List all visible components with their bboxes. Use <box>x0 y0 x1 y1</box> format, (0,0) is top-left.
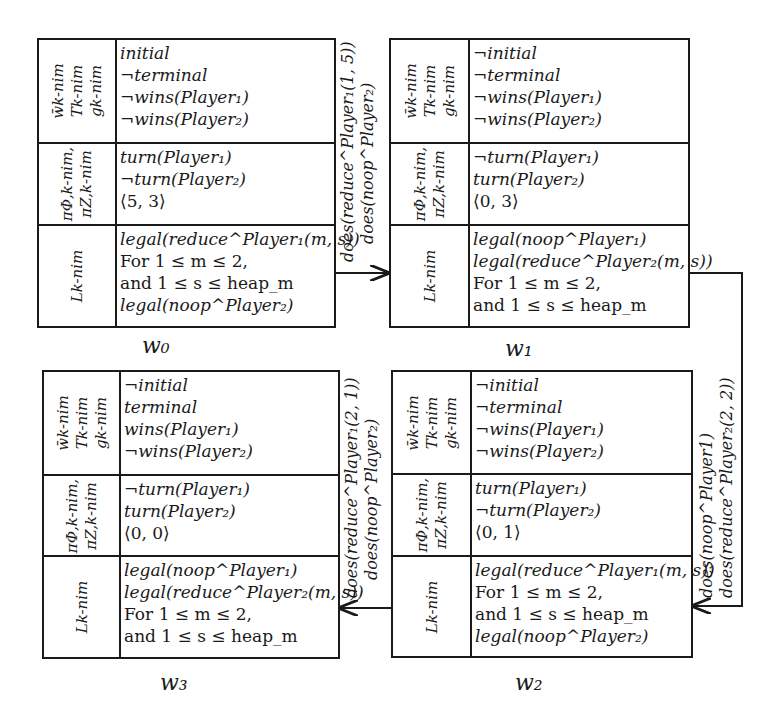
row-content: ¬initial terminal wins(Player₁) ¬wins(Pl… <box>121 372 338 474</box>
state-label-w0: w₀ <box>142 333 170 358</box>
row-content: turn(Player₁) ¬turn(Player₂) ⟨0, 1⟩ <box>472 475 691 555</box>
row-label-cell: w̄k-nim Tk-nim gk-nim <box>39 40 117 142</box>
row-content: initial ¬terminal ¬wins(Player₁) ¬wins(P… <box>117 40 334 142</box>
row-label-cell: w̄k-nim Tk-nim gk-nim <box>393 372 472 473</box>
state-w0: w̄k-nim Tk-nim gk-nim initial ¬terminal … <box>37 38 336 328</box>
row-content: ¬turn(Player₁) turn(Player₂) ⟨0, 3⟩ <box>470 144 688 224</box>
row-content: legal(noop^Player₁) legal(reduce^Player₂… <box>470 226 688 326</box>
row-valuation: w̄k-nim Tk-nim gk-nim ¬initial terminal … <box>44 372 338 474</box>
state-w1: w̄k-nim Tk-nim gk-nim ¬initial ¬terminal… <box>389 38 690 328</box>
row-turn: πΦ,k-nim, πZ,k-nim turn(Player₁) ¬turn(P… <box>393 473 691 555</box>
state-w2: w̄k-nim Tk-nim gk-nim ¬initial ¬terminal… <box>391 370 693 658</box>
row-legal: Lk-nim legal(reduce^Player₁(m, s)) For 1… <box>39 224 334 326</box>
state-label-w1: w₁ <box>505 336 533 361</box>
row-label-turn: πΦ,k-nim, πZ,k-nim <box>58 147 96 221</box>
row-label-cell: w̄k-nim Tk-nim gk-nim <box>391 40 470 142</box>
row-label-cell: πΦ,k-nim, πZ,k-nim <box>393 475 472 555</box>
row-label-cell: πΦ,k-nim, πZ,k-nim <box>39 144 117 224</box>
row-label-legal: Lk-nim <box>420 250 439 303</box>
row-label-cell: πΦ,k-nim, πZ,k-nim <box>44 476 121 555</box>
state-w3: w̄k-nim Tk-nim gk-nim ¬initial terminal … <box>42 370 340 659</box>
row-content: ¬initial ¬terminal ¬wins(Player₁) ¬wins(… <box>470 40 688 142</box>
row-turn: πΦ,k-nim, πZ,k-nim ¬turn(Player₁) turn(P… <box>44 474 338 555</box>
row-label-cell: Lk-nim <box>391 226 470 326</box>
row-legal: Lk-nim legal(noop^Player₁) legal(reduce^… <box>391 224 688 326</box>
row-legal: Lk-nim legal(noop^Player₁) legal(reduce^… <box>44 555 338 657</box>
row-label-valuation: w̄k-nim Tk-nim gk-nim <box>401 63 458 118</box>
row-label-turn: πΦ,k-nim, πZ,k-nim <box>63 478 101 552</box>
state-label-w3: w₃ <box>160 670 188 695</box>
transition-label-w2-w3: does(reduce^Player₁(2, 1)) does(noop^Pla… <box>342 377 382 598</box>
row-label-valuation: w̄k-nim Tk-nim gk-nim <box>53 395 110 450</box>
row-turn: πΦ,k-nim, πZ,k-nim turn(Player₁) ¬turn(P… <box>39 142 334 224</box>
row-label-turn: πΦ,k-nim, πZ,k-nim <box>411 147 449 221</box>
row-valuation: w̄k-nim Tk-nim gk-nim ¬initial ¬terminal… <box>391 40 688 142</box>
row-label-cell: Lk-nim <box>393 557 472 656</box>
row-label-turn: πΦ,k-nim, πZ,k-nim <box>413 478 451 552</box>
row-label-valuation: w̄k-nim Tk-nim gk-nim <box>403 395 460 450</box>
transition-label-w1-w2: does(noop^Player1) does(reduce^Player₂(2… <box>697 377 737 598</box>
row-label-valuation: w̄k-nim Tk-nim gk-nim <box>49 63 106 118</box>
row-content: legal(noop^Player₁) legal(reduce^Player₂… <box>121 557 338 657</box>
row-legal: Lk-nim legal(reduce^Player₁(m, s)) For 1… <box>393 555 691 656</box>
transition-label-w0-w1: does(reduce^Player₁(1, 5)) does(noop^Pla… <box>338 41 378 262</box>
row-content: turn(Player₁) ¬turn(Player₂) ⟨5, 3⟩ <box>117 144 334 224</box>
row-label-legal: Lk-nim <box>68 250 87 303</box>
row-turn: πΦ,k-nim, πZ,k-nim ¬turn(Player₁) turn(P… <box>391 142 688 224</box>
row-label-cell: Lk-nim <box>39 226 117 326</box>
row-valuation: w̄k-nim Tk-nim gk-nim initial ¬terminal … <box>39 40 334 142</box>
row-label-legal: Lk-nim <box>422 580 441 633</box>
row-label-legal: Lk-nim <box>72 581 91 634</box>
row-content: legal(reduce^Player₁(m, s)) For 1 ≤ m ≤ … <box>117 226 334 326</box>
row-content: ¬turn(Player₁) turn(Player₂) ⟨0, 0⟩ <box>121 476 338 555</box>
row-content: legal(reduce^Player₁(m, s)) For 1 ≤ m ≤ … <box>472 557 691 656</box>
row-label-cell: w̄k-nim Tk-nim gk-nim <box>44 372 121 474</box>
row-valuation: w̄k-nim Tk-nim gk-nim ¬initial ¬terminal… <box>393 372 691 473</box>
row-label-cell: Lk-nim <box>44 557 121 657</box>
state-label-w2: w₂ <box>515 670 543 695</box>
row-label-cell: πΦ,k-nim, πZ,k-nim <box>391 144 470 224</box>
row-content: ¬initial ¬terminal ¬wins(Player₁) ¬wins(… <box>472 372 691 473</box>
